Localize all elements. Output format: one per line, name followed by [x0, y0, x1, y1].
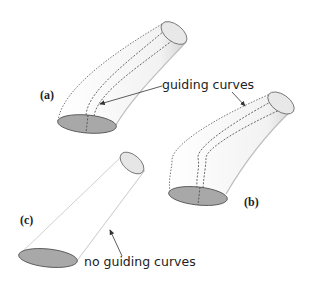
panel-b: (b)	[168, 87, 298, 209]
panel-c: (c)	[18, 148, 148, 270]
arrow-to-b	[232, 92, 245, 106]
panel-label-a: (a)	[40, 88, 54, 102]
figure-canvas: (a) (b) (c) guiding curves no guiding cu…	[0, 0, 309, 284]
surface-a	[58, 24, 186, 125]
no-guiding-curves-label: no guiding curves	[84, 254, 196, 269]
surface-b	[169, 94, 292, 194]
annotation-no-guiding-curves: no guiding curves	[84, 230, 196, 269]
panel-label-c: (c)	[20, 213, 33, 227]
panel-label-b: (b)	[244, 195, 259, 209]
guiding-curves-label: guiding curves	[162, 77, 254, 92]
arrow-to-c	[110, 230, 122, 256]
surface-c	[22, 158, 144, 262]
